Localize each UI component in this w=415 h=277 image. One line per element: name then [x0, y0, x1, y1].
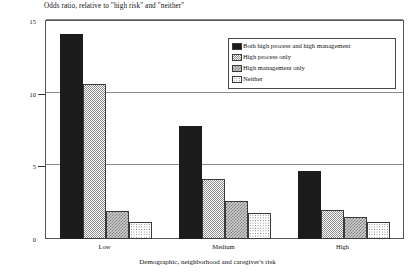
- bar: [106, 211, 129, 239]
- bar: [83, 84, 106, 240]
- x-axis-tick-labels: LowMediumHigh: [45, 243, 404, 257]
- bar: [344, 217, 367, 239]
- x-axis-tick-label-medium: Medium: [212, 243, 234, 250]
- chart-figure: Odds ratio, relative to "high risk" and …: [0, 0, 415, 277]
- legend-item: Both high process and high management: [232, 41, 392, 52]
- legend-label: High process only: [243, 54, 291, 61]
- bar: [367, 222, 390, 239]
- bar: [298, 171, 321, 239]
- bar: [60, 34, 83, 239]
- legend-item: High management only: [232, 63, 392, 74]
- y-axis-tick-mark: [38, 166, 45, 167]
- bar: [129, 222, 152, 239]
- legend-label: High management only: [243, 65, 305, 72]
- y-axis: 051015: [0, 20, 45, 240]
- chart-title: Odds ratio, relative to "high risk" and …: [44, 2, 184, 10]
- legend-label: Neither: [243, 76, 263, 83]
- legend-swatch-icon: [232, 65, 242, 72]
- bar-group-low: [60, 21, 152, 239]
- legend-item: Neither: [232, 74, 392, 85]
- legend-item: High process only: [232, 52, 392, 63]
- y-axis-tick-label: 10: [30, 90, 36, 97]
- y-axis-tick-label: 15: [30, 18, 36, 25]
- x-axis-tick-label-high: High: [336, 243, 349, 250]
- legend-swatch-icon: [232, 76, 242, 83]
- legend-swatch-icon: [232, 43, 242, 50]
- bar: [225, 201, 248, 239]
- bar: [248, 213, 271, 239]
- y-axis-tick-mark: [38, 94, 45, 95]
- legend-swatch-icon: [232, 54, 242, 61]
- chart-legend: Both high process and high managementHig…: [228, 38, 396, 89]
- bar: [202, 179, 225, 239]
- gridline-15: [46, 19, 403, 20]
- legend-label: Both high process and high management: [243, 43, 351, 50]
- y-axis-tick-label: 5: [33, 163, 36, 170]
- y-axis-tick-label: 0: [33, 236, 36, 243]
- x-axis-tick-label-low: Low: [98, 243, 110, 250]
- bar: [321, 210, 344, 239]
- bar: [179, 126, 202, 239]
- x-axis-title: Demographic, neighborhood and caregiver'…: [0, 258, 415, 266]
